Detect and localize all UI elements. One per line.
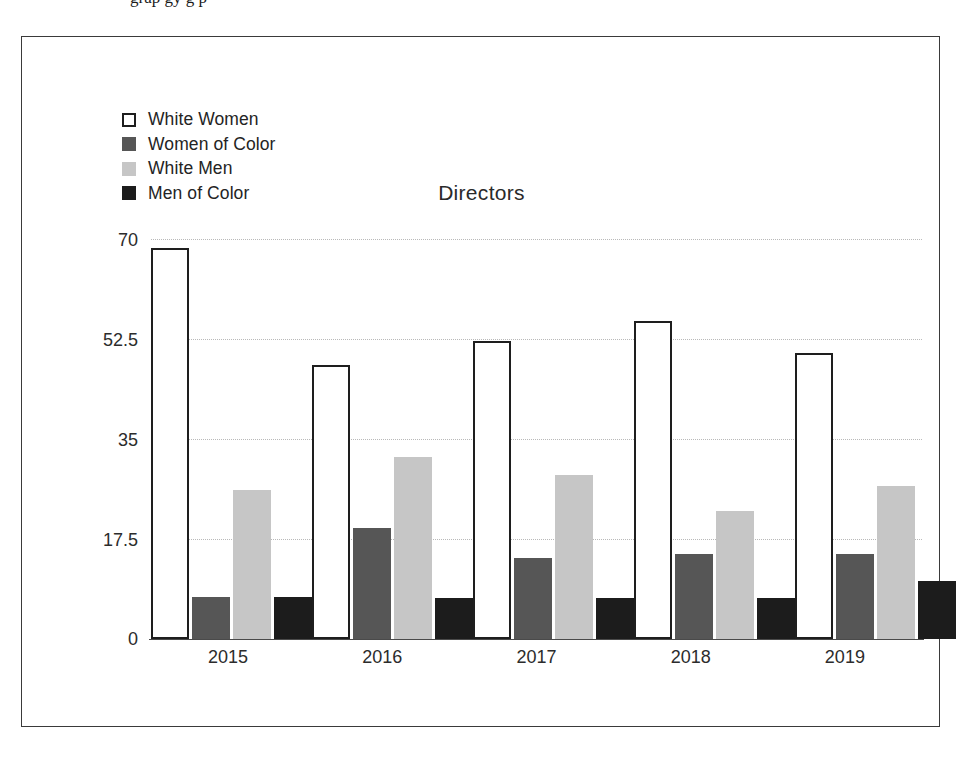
bar-group-2019: [795, 239, 956, 639]
bar-men-of-color-2017[interactable]: [596, 598, 634, 639]
bar-white-women-2018[interactable]: [634, 321, 672, 639]
x-axis-tick-label-2016: 2016: [305, 647, 459, 668]
bar-men-of-color-2015[interactable]: [274, 597, 312, 639]
legend-swatch-women-of-color: [122, 137, 136, 151]
y-axis-tick-label: 17.5: [103, 530, 138, 551]
bar-women-of-color-2018[interactable]: [675, 554, 713, 639]
legend-item-white-men: White Men: [122, 158, 276, 179]
bar-white-men-2019[interactable]: [877, 486, 915, 639]
bar-white-men-2015[interactable]: [233, 490, 271, 639]
y-axis-tick-label: 70: [118, 230, 138, 251]
y-axis-tick-label: 0: [128, 629, 138, 650]
top-cropped-text-sliver: grap gy g p: [130, 0, 690, 7]
x-axis-tick-label-2015: 2015: [151, 647, 305, 668]
bar-white-women-2019[interactable]: [795, 353, 833, 639]
bar-women-of-color-2019[interactable]: [836, 554, 874, 639]
bar-women-of-color-2017[interactable]: [514, 558, 552, 639]
legend-item-women-of-color: Women of Color: [122, 134, 276, 155]
bar-men-of-color-2019[interactable]: [918, 581, 956, 639]
top-cropped-text: grap gy g p: [130, 0, 690, 6]
legend-label-women-of-color: Women of Color: [148, 134, 276, 155]
bar-men-of-color-2016[interactable]: [435, 598, 473, 639]
bar-white-men-2017[interactable]: [555, 475, 593, 639]
chart-title: Directors: [22, 181, 941, 205]
bar-women-of-color-2015[interactable]: [192, 597, 230, 639]
legend-swatch-white-women: [122, 113, 136, 127]
plot-area: 017.53552.570 20152016201720182019: [151, 239, 922, 639]
bar-group-2015: [151, 239, 312, 639]
y-axis-tick-label: 35: [118, 430, 138, 451]
bar-white-men-2018[interactable]: [716, 511, 754, 639]
bar-white-women-2017[interactable]: [473, 341, 511, 639]
y-axis-tick-label: 52.5: [103, 330, 138, 351]
figure-frame: White Women Women of Color White Men Men…: [21, 36, 940, 727]
bar-groups: [151, 239, 922, 639]
bar-women-of-color-2016[interactable]: [353, 528, 391, 639]
bar-white-women-2016[interactable]: [312, 365, 350, 639]
bar-white-men-2016[interactable]: [394, 457, 432, 639]
legend-label-white-women: White Women: [148, 109, 259, 130]
bar-group-2018: [634, 239, 795, 639]
bar-men-of-color-2018[interactable]: [757, 598, 795, 639]
bar-group-2017: [473, 239, 634, 639]
x-axis-line: [149, 639, 924, 640]
legend-label-white-men: White Men: [148, 158, 233, 179]
x-axis-tick-label-2018: 2018: [614, 647, 768, 668]
legend-item-white-women: White Women: [122, 109, 276, 130]
legend-swatch-white-men: [122, 162, 136, 176]
x-axis-tick-label-2017: 2017: [459, 647, 613, 668]
x-axis-tick-label-2019: 2019: [768, 647, 922, 668]
bar-group-2016: [312, 239, 473, 639]
bar-white-women-2015[interactable]: [151, 248, 189, 639]
